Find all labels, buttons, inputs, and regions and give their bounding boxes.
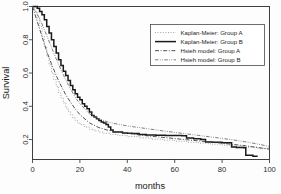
y-tick-label: 0.6 — [21, 68, 30, 79]
legend-label-4[interactable]: Hsieh model: Group B — [181, 56, 241, 63]
y-tick-label: 0.2 — [21, 134, 30, 145]
y-axis-title: Survival — [1, 67, 11, 100]
x-tick-label: 20 — [76, 165, 84, 174]
chart-legend[interactable]: Kaplan-Meier: Group AKaplan-Meier: Group… — [151, 25, 265, 66]
legend-label-1[interactable]: Kaplan-Meier: Group A — [181, 29, 244, 36]
y-tick-label: 1.0 — [21, 1, 30, 12]
plot-canvas: 020406080100 0.20.40.60.81.0 months Surv… — [0, 0, 281, 194]
x-tick-label: 100 — [263, 165, 276, 174]
x-tick-label: 80 — [218, 165, 226, 174]
legend-label-3[interactable]: Hsieh model: Group A — [181, 47, 242, 54]
x-tick-label: 40 — [123, 165, 131, 174]
legend-label-2[interactable]: Kaplan-Meier: Group B — [181, 38, 243, 45]
y-tick-label: 0.8 — [21, 34, 30, 45]
x-axis-title: months — [135, 181, 166, 191]
x-axis-ticks: 020406080100 — [30, 160, 275, 174]
y-tick-label: 0.4 — [21, 101, 30, 112]
x-tick-label: 0 — [30, 165, 34, 174]
survival-plot-figure: 020406080100 0.20.40.60.81.0 months Surv… — [0, 0, 281, 194]
x-tick-label: 60 — [170, 165, 178, 174]
y-axis-ticks: 0.20.40.60.81.0 — [21, 1, 33, 145]
